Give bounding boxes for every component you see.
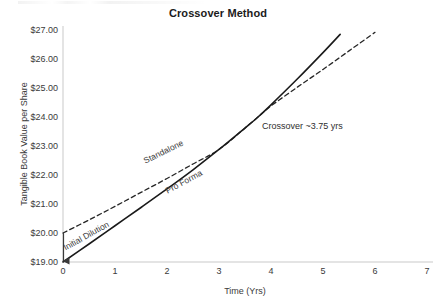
series-line-standalone — [63, 32, 375, 233]
crossover-annotation-label: Crossover ~3.75 yrs — [262, 121, 343, 131]
crossover-method-chart: Crossover Method Tangible Book Value per… — [0, 0, 436, 306]
plot-area — [0, 0, 436, 306]
